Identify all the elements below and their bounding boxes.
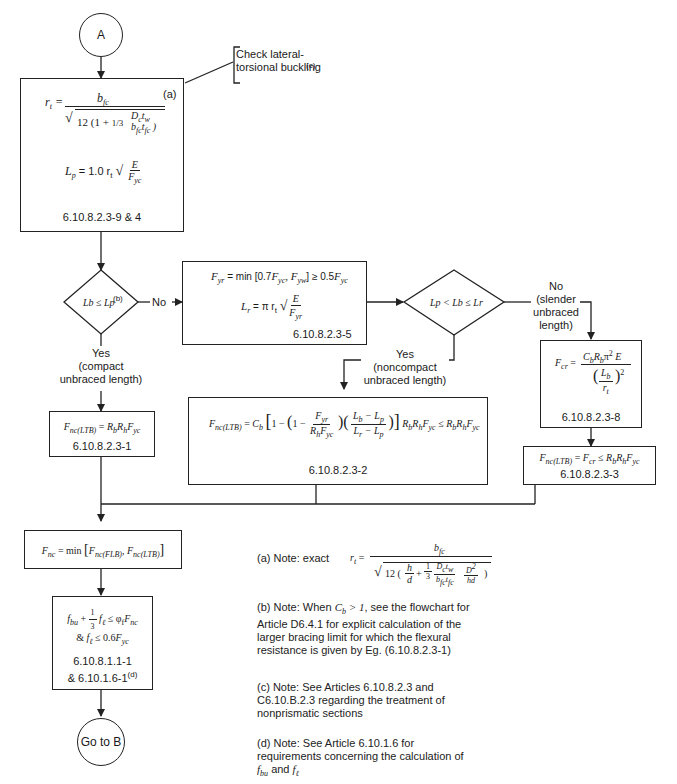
connector-b-label: Go to B: [81, 735, 122, 749]
box-slender-fnc: Fnc(LTB) = Fcr ≤ RbRhFyc 6.10.8.2.3-3: [523, 446, 656, 485]
box-fyr-reference: 6.10.8.2.3-5: [293, 328, 352, 341]
note-d-var-fbu: fbu: [257, 763, 268, 775]
note-a-prefix: (a) Note: exact: [257, 552, 329, 565]
decision2-no-sub1: (slender: [526, 293, 586, 306]
box-rt-lp: (a) rt = bfc √ 12 (1 + 1/3 Dctw bfctfc )…: [20, 78, 184, 232]
box-compact-reference: 6.10.8.2.3-1: [50, 440, 154, 453]
note-c: (c) Note: See Articles 6.10.8.2.3 and C6…: [257, 681, 452, 720]
box-fnc-min: Fnc = min [Fnc(FLB), Fnc(LTB)]: [24, 530, 182, 569]
fnc-min-formula: Fnc = min [Fnc(FLB), Fnc(LTB)]: [25, 543, 181, 561]
check-reference2: & 6.10.1.6-1(d): [53, 668, 152, 685]
decision2-no-sub3: length): [526, 319, 586, 332]
box-noncompact-reference: 6.10.8.2.3-2: [189, 464, 487, 477]
decision1-yes-sub1: (compact: [61, 360, 141, 373]
check-formula2: & fℓ ≤ 0.6Fyc: [53, 631, 152, 648]
box-fcr-reference: 6.10.8.2.3-8: [541, 411, 641, 424]
decision2-no-label: No: [526, 280, 586, 293]
fyr-formula: Fyr = min [0.7Fyc, Fyw] ≥ 0.5Fyc: [211, 270, 348, 287]
decision2-no-sub2: unbraced: [526, 306, 586, 319]
noncompact-formula: Fnc(LTB) = Cb [1 − (1 − FyrRhFyc )( Lb −…: [209, 410, 479, 439]
decision2-condition: Lp < Lb ≤ Lr: [430, 296, 483, 309]
decision1-yes-label: Yes: [61, 347, 141, 360]
decision2-yes-sub2: unbraced length): [345, 374, 465, 387]
decision1-condition: Lb ≤ Lp: [83, 296, 115, 309]
box-compact-fnc: Fnc(LTB) = RbRhFyc 6.10.8.2.3-1: [49, 411, 155, 457]
box-rt-tag: (a): [163, 88, 176, 101]
note-b: (b) Note: When Cb > 1, see the flowchart…: [257, 601, 477, 657]
slender-formula: Fnc(LTB) = Fcr ≤ RbRhFyc: [524, 451, 655, 468]
decision2-yes-label: Yes: [355, 348, 455, 361]
connector-go-to-b: Go to B: [77, 718, 125, 766]
note-d-var-fl: fℓ: [293, 763, 299, 775]
compact-formula: Fnc(LTB) = RbRhFyc: [50, 420, 154, 437]
callout-footnote: (c): [306, 59, 315, 72]
decision1-no-label: No: [152, 296, 166, 309]
box-rt-reference: 6.10.8.2.3-9 & 4: [21, 211, 183, 224]
decision1-yes-sub2: unbraced length): [51, 373, 151, 386]
connector-a: A: [79, 13, 123, 57]
decision1-footnote: (b): [113, 294, 123, 303]
connector-a-label: A: [97, 28, 105, 42]
check-reference1: 6.10.8.1.1-1: [53, 655, 152, 668]
box-fyr-lr: Fyr = min [0.7Fyc, Fyw] ≥ 0.5Fyc Lr = π …: [182, 261, 367, 345]
box-slender-reference: 6.10.8.2.3-3: [524, 468, 655, 481]
lp-formula: Lp = 1.0 rt √ EFyc: [65, 159, 165, 185]
box-fcr: Fcr = CbRbπ2 E ( Lbrt )2 6.10.8.2.3-8: [540, 340, 642, 428]
callout-text: Check lateral-torsional buckling (c): [236, 48, 336, 74]
lr-formula: Lr = π rt √EFyr: [241, 292, 304, 323]
check-formula1: fbu + 13 fℓ ≤ φfFnc: [53, 606, 152, 633]
note-b-condition: Cb > 1: [335, 601, 365, 613]
box-noncompact-fnc: Fnc(LTB) = Cb [1 − (1 − FyrRhFyc )( Lb −…: [188, 397, 488, 485]
box-flexure-check: fbu + 13 fℓ ≤ φfFnc & fℓ ≤ 0.6Fyc 6.10.8…: [52, 596, 153, 690]
note-d: (d) Note: See Article 6.10.1.6 for requi…: [257, 737, 477, 780]
decision2-yes-sub1: (noncompact: [355, 361, 455, 374]
